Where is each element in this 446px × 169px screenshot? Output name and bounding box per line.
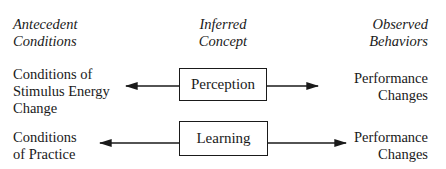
behavior-learning: Performance Changes	[354, 129, 428, 163]
concept-box-perception: Perception	[179, 68, 267, 101]
header-inferred-concept: Inferred Concept	[180, 16, 266, 50]
antecedent-learning: Conditions of Practice	[13, 129, 77, 163]
antecedent-perception: Conditions of Stimulus Energy Change	[13, 66, 110, 117]
header-observed-behaviors: Observed Behaviors	[369, 16, 428, 50]
concept-box-learning: Learning	[179, 121, 268, 156]
behavior-perception: Performance Changes	[354, 70, 428, 104]
header-antecedent-conditions: Antecedent Conditions	[13, 16, 77, 50]
